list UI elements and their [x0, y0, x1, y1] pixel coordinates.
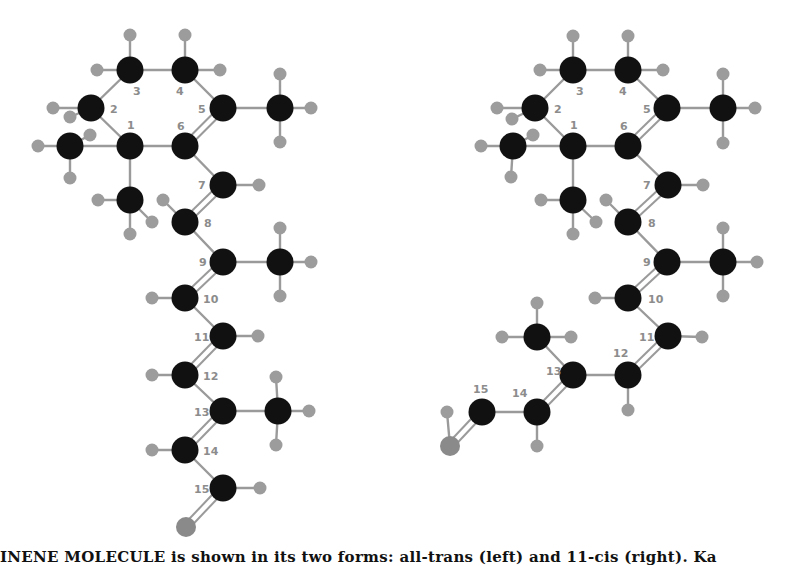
carbon-atom-c11	[210, 323, 237, 350]
hydrogen-atom	[567, 30, 580, 43]
atom-number-label: 1	[127, 119, 135, 132]
atom-number-label: 13	[194, 406, 209, 419]
hydrogen-atom	[749, 102, 762, 115]
atom-number-label: 10	[203, 293, 219, 306]
atom-number-label: 14	[203, 445, 219, 458]
bonds	[447, 36, 757, 448]
hydrogen-atom	[590, 216, 603, 229]
oxygen-atom	[176, 517, 196, 537]
hydrogen-atom	[600, 194, 613, 207]
carbon-atom-c4	[172, 57, 199, 84]
hydrogen-atom	[92, 194, 105, 207]
carbon-atom-c8	[172, 209, 199, 236]
hydrogen-atom	[146, 444, 159, 457]
atom-number-label: 9	[643, 256, 651, 269]
carbon-atom-c12	[615, 362, 642, 389]
hydrogen-atom	[534, 64, 547, 77]
hydrogen-atom	[505, 171, 518, 184]
hydrogen-atom	[64, 111, 77, 124]
carbon-atom-c4	[615, 57, 642, 84]
hydrogen-atom	[91, 64, 104, 77]
carbon-atom-c13	[560, 362, 587, 389]
carbon-atom-m1b	[560, 187, 587, 214]
hydrogen-atom	[252, 330, 265, 343]
atom-number-label: 6	[177, 120, 185, 133]
atom-number-label: 9	[199, 256, 207, 269]
carbon-atom-m9	[710, 249, 737, 276]
hydrogen-atom	[274, 222, 287, 235]
atom-number-label: 15	[473, 383, 488, 396]
hydrogen-atom	[622, 30, 635, 43]
carbon-atom-c10	[615, 285, 642, 312]
carbon-atom-m13	[265, 398, 292, 425]
carbon-atom-m1a	[57, 133, 84, 160]
hydrogen-atom	[535, 194, 548, 207]
atom-number-label: 3	[133, 85, 141, 98]
carbon-atom-c3	[117, 57, 144, 84]
carbon-atom-c7	[655, 172, 682, 199]
hydrogen-atom	[696, 331, 709, 344]
atom-number-label: 15	[194, 483, 209, 496]
atom-number-label: 4	[176, 85, 184, 98]
carbon-atom-c2	[522, 95, 549, 122]
atom-number-label: 14	[512, 387, 528, 400]
hydrogen-atom	[274, 290, 287, 303]
atom-number-label: 2	[110, 103, 118, 116]
carbon-atom-m1a	[500, 133, 527, 160]
carbon-atom-c3	[560, 57, 587, 84]
hydrogen-atom	[565, 331, 578, 344]
hydrogen-atom	[146, 369, 159, 382]
atom-number-label: 8	[648, 217, 656, 230]
carbon-atom-c15	[469, 399, 496, 426]
carbon-atoms	[440, 57, 737, 457]
carbon-atom-c1	[560, 133, 587, 160]
carbon-atom-c2	[78, 95, 105, 122]
hydrogen-atom	[254, 482, 267, 495]
carbon-atom-c10	[172, 285, 199, 312]
hydrogen-atom	[305, 102, 318, 115]
hydrogen-atom	[751, 256, 764, 269]
atom-labels: 123456789101112131415	[473, 85, 664, 400]
atom-number-label: 12	[203, 370, 218, 383]
hydrogen-atom	[527, 129, 540, 142]
retinal-molecule-diagram: 123456789101112131415 123456789101112131…	[0, 0, 808, 566]
atom-number-label: 2	[554, 103, 562, 116]
hydrogen-atom	[214, 64, 227, 77]
carbon-atom-m5	[710, 95, 737, 122]
carbon-atom-m1b	[117, 187, 144, 214]
atom-number-label: 3	[576, 85, 584, 98]
hydrogen-atom	[491, 102, 504, 115]
atom-number-label: 5	[198, 103, 206, 116]
hydrogen-atom	[717, 137, 730, 150]
hydrogen-atom	[84, 129, 97, 142]
carbon-atom-c9	[654, 249, 681, 276]
carbon-atom-c1	[117, 133, 144, 160]
hydrogen-atom	[506, 113, 519, 126]
hydrogen-atom	[270, 439, 283, 452]
atom-number-label: 4	[619, 85, 627, 98]
atom-number-label: 5	[643, 103, 651, 116]
hydrogen-atom	[157, 194, 170, 207]
hydrogen-atom	[253, 179, 266, 192]
hydrogen-atom	[146, 292, 159, 305]
carbon-atom-c14	[524, 399, 551, 426]
hydrogen-atom	[32, 140, 45, 153]
hydrogen-atom	[657, 64, 670, 77]
atom-number-label: 12	[613, 347, 628, 360]
atom-number-label: 11	[194, 331, 209, 344]
hydrogen-atom	[496, 331, 509, 344]
hydrogen-atom	[567, 228, 580, 241]
hydrogen-atom	[274, 136, 287, 149]
carbon-atoms	[57, 57, 294, 538]
hydrogen-atom	[531, 440, 544, 453]
hydrogen-atom	[274, 68, 287, 81]
atom-number-label: 7	[198, 179, 206, 192]
hydrogen-atom	[589, 292, 602, 305]
carbon-atom-c13	[210, 398, 237, 425]
hydrogen-atom	[717, 222, 730, 235]
hydrogen-atom	[124, 29, 137, 42]
hydrogen-atom	[64, 172, 77, 185]
hydrogen-atom	[717, 290, 730, 303]
carbon-atom-c9	[210, 249, 237, 276]
carbon-atom-c5	[210, 95, 237, 122]
